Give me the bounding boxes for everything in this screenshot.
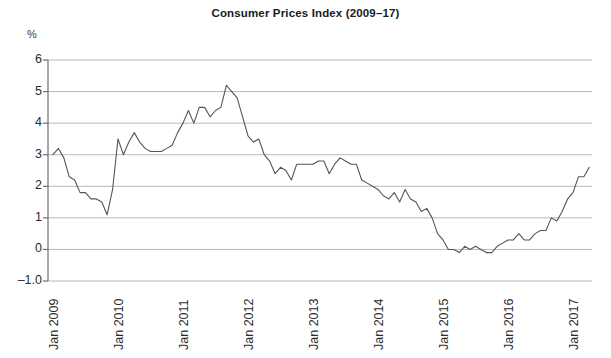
x-tick-label: Jan 2010 <box>112 299 126 350</box>
axis-tick-marks <box>43 60 48 281</box>
x-tick-label: Jan 2012 <box>242 299 256 350</box>
y-tick-label: 3 <box>0 147 42 161</box>
x-tick-label: Jan 2017 <box>567 299 581 350</box>
y-tick-label: 5 <box>0 84 42 98</box>
y-tick-label: –1.0 <box>0 273 42 287</box>
chart-plot-area <box>0 0 611 358</box>
x-tick-label: Jan 2015 <box>437 299 451 350</box>
gridlines <box>48 60 592 281</box>
y-tick-label: 4 <box>0 115 42 129</box>
data-series-lines <box>53 85 589 252</box>
x-tick-label: Jan 2011 <box>177 299 191 350</box>
y-tick-label: 6 <box>0 52 42 66</box>
series-line-0 <box>53 85 589 252</box>
y-tick-label: 2 <box>0 178 42 192</box>
y-tick-label: 0 <box>0 241 42 255</box>
x-tick-label: Jan 2014 <box>372 299 386 350</box>
x-tick-label: Jan 2009 <box>47 299 61 350</box>
y-tick-label: 1 <box>0 210 42 224</box>
chart-container: Consumer Prices Index (2009–17) % 654321… <box>0 0 611 358</box>
x-tick-label: Jan 2016 <box>502 299 516 350</box>
x-tick-label: Jan 2013 <box>307 299 321 350</box>
